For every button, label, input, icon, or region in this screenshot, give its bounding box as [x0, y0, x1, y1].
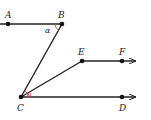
point-a [6, 22, 11, 27]
label-b: B [57, 10, 65, 20]
segment-bc [21, 24, 62, 97]
point-f [120, 59, 125, 64]
label-a: A [4, 10, 12, 20]
point-b [60, 22, 65, 27]
segment-ce [21, 61, 82, 97]
geometry-diagram: A B C D E F α [0, 0, 151, 120]
point-c [19, 95, 24, 100]
label-c: C [17, 103, 24, 113]
point-d [120, 95, 125, 100]
angle-arc-alpha [55, 24, 59, 30]
label-d: D [118, 103, 126, 113]
label-alpha: α [45, 26, 51, 35]
label-f: F [118, 47, 126, 57]
point-e [80, 59, 85, 64]
label-e: E [77, 47, 85, 57]
